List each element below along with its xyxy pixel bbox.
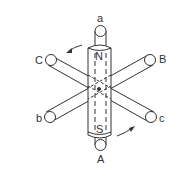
label-B: B [159, 53, 166, 65]
label-C: C [35, 54, 43, 66]
rotation-arrow-bottom-icon [117, 126, 135, 136]
north-pole-label: N [95, 50, 103, 62]
south-pole-label: S [96, 123, 103, 135]
label-A: A [97, 153, 105, 165]
label-c: c [159, 112, 165, 124]
magnet-coil-diagram: N S a A C B b c [0, 0, 183, 176]
label-a: a [97, 12, 104, 24]
rotation-arrow-top-icon [66, 45, 82, 53]
label-b: b [36, 112, 42, 124]
pivot-dot [98, 88, 101, 91]
